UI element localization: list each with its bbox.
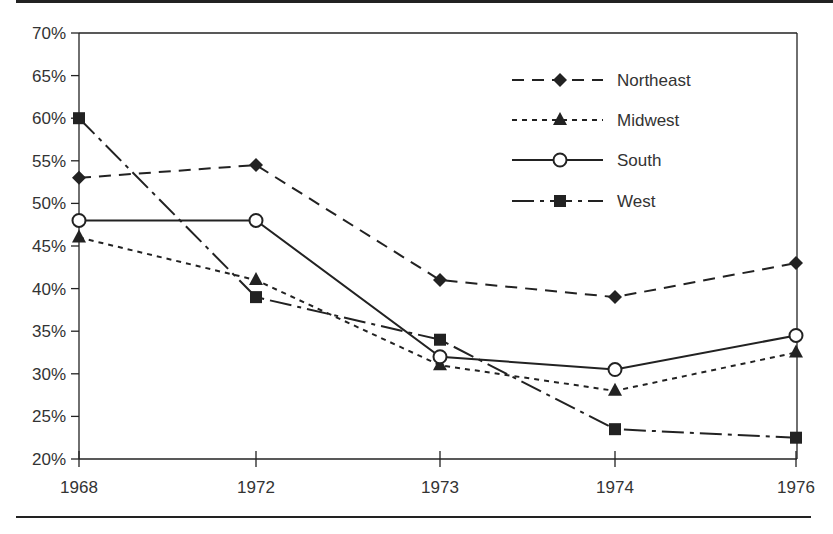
x-tick-label: 1972 xyxy=(237,478,275,497)
legend-item-northeast: Northeast xyxy=(512,71,691,90)
y-tick-label: 20% xyxy=(32,450,66,469)
y-tick-label: 30% xyxy=(32,365,66,384)
triangle-marker xyxy=(553,112,567,125)
diamond-marker xyxy=(72,171,86,185)
legend: NortheastMidwestSouthWest xyxy=(512,71,691,211)
triangle-marker xyxy=(608,383,622,396)
square-marker xyxy=(434,334,446,346)
square-marker xyxy=(790,432,802,444)
circle-marker xyxy=(73,214,86,227)
y-tick-label: 65% xyxy=(32,67,66,86)
line-chart: 20%25%30%35%40%45%50%55%60%65%70% 196819… xyxy=(0,0,833,534)
circle-marker xyxy=(434,350,447,363)
x-tick-label: 1976 xyxy=(777,478,815,497)
triangle-marker xyxy=(249,272,263,285)
triangle-marker xyxy=(72,229,86,242)
y-tick-label: 60% xyxy=(32,109,66,128)
y-tick-label: 40% xyxy=(32,280,66,299)
x-tick-label: 1968 xyxy=(60,478,98,497)
legend-label: Northeast xyxy=(617,71,691,90)
diamond-marker xyxy=(553,73,567,87)
square-marker xyxy=(73,112,85,124)
square-marker xyxy=(609,423,621,435)
y-tick-label: 25% xyxy=(32,407,66,426)
circle-marker xyxy=(554,154,567,167)
legend-item-west: West xyxy=(512,192,656,211)
circle-marker xyxy=(790,329,803,342)
y-tick-label: 70% xyxy=(32,24,66,43)
x-tick-label: 1974 xyxy=(596,478,634,497)
series-northeast xyxy=(72,158,803,304)
series-midwest xyxy=(72,229,803,395)
plot-frame xyxy=(79,33,797,459)
y-tick-label: 55% xyxy=(32,152,66,171)
series-layer xyxy=(72,112,803,444)
diamond-marker xyxy=(789,256,803,270)
y-tick-label: 50% xyxy=(32,194,66,213)
x-tick-label: 1973 xyxy=(421,478,459,497)
circle-marker xyxy=(250,214,263,227)
legend-label: West xyxy=(617,192,656,211)
diamond-marker xyxy=(608,290,622,304)
series-south xyxy=(73,214,803,376)
triangle-marker xyxy=(789,345,803,358)
y-tick-label: 35% xyxy=(32,322,66,341)
x-axis: 19681972197319741976 xyxy=(60,451,815,497)
diamond-marker xyxy=(433,273,447,287)
square-marker xyxy=(250,291,262,303)
legend-item-midwest: Midwest xyxy=(512,111,680,130)
circle-marker xyxy=(609,363,622,376)
y-axis: 20%25%30%35%40%45%50%55%60%65%70% xyxy=(32,24,79,469)
y-tick-label: 45% xyxy=(32,237,66,256)
legend-label: Midwest xyxy=(617,111,680,130)
diamond-marker xyxy=(249,158,263,172)
legend-item-south: South xyxy=(512,151,661,170)
legend-label: South xyxy=(617,151,661,170)
square-marker xyxy=(554,195,566,207)
